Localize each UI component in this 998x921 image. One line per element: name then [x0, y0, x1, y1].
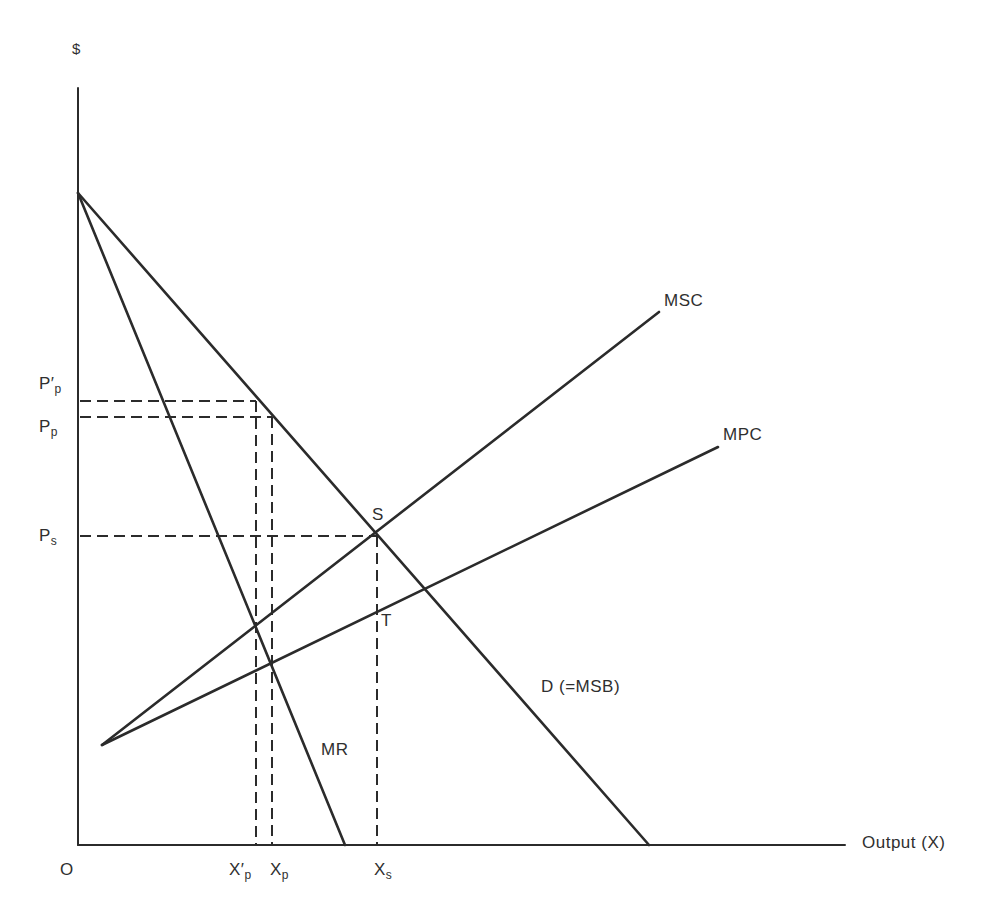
- mpc-curve: [102, 447, 718, 745]
- p-p-main: P: [39, 417, 51, 436]
- point-s-label: S: [372, 505, 384, 525]
- p-prime-p-sub: p: [55, 382, 62, 396]
- x-p-sub: p: [282, 868, 289, 882]
- x-prime-p-label: X′p: [229, 860, 252, 882]
- p-prime-p-label: P′p: [39, 374, 62, 396]
- externality-diagram: [0, 0, 998, 921]
- p-s-label: Ps: [39, 526, 57, 548]
- p-s-sub: s: [51, 534, 58, 548]
- origin-label: O: [60, 860, 74, 880]
- y-axis-label: $: [72, 40, 81, 57]
- x-s-label: Xs: [374, 860, 392, 882]
- p-p-label: Pp: [39, 417, 58, 439]
- x-axis-label: Output (X): [862, 833, 945, 853]
- x-s-sub: s: [386, 868, 393, 882]
- x-p-main: X: [270, 860, 282, 879]
- mr-curve: [78, 193, 345, 845]
- p-p-sub: p: [51, 425, 58, 439]
- p-prime-p-main: P′: [39, 374, 55, 393]
- demand-label: D (=MSB): [541, 677, 620, 697]
- mr-label: MR: [321, 740, 348, 760]
- x-prime-p-sub: p: [245, 868, 252, 882]
- point-t-label: T: [381, 611, 392, 631]
- msc-label: MSC: [664, 291, 703, 311]
- x-prime-p-main: X′: [229, 860, 245, 879]
- mpc-label: MPC: [723, 425, 762, 445]
- x-p-label: Xp: [270, 860, 289, 882]
- x-s-main: X: [374, 860, 386, 879]
- demand-msb-curve: [78, 193, 649, 845]
- p-s-main: P: [39, 526, 51, 545]
